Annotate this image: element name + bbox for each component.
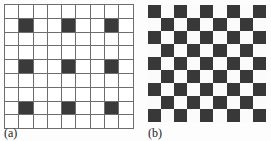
grid-cell	[161, 5, 174, 18]
grid-cell	[105, 88, 118, 101]
grid-cell	[105, 46, 118, 59]
grid-cell	[200, 70, 213, 83]
grid-cell	[62, 46, 75, 59]
grid-cell	[253, 70, 266, 83]
grid-cell	[187, 96, 200, 109]
grid-cell	[213, 70, 226, 83]
grid-cell	[187, 70, 200, 83]
grid-cell	[5, 46, 18, 59]
grid-cell	[34, 74, 47, 87]
grid-cell	[161, 96, 174, 109]
grid-cell	[253, 83, 266, 96]
grid-cell	[34, 46, 47, 59]
grid-cell	[227, 83, 240, 96]
grid-cell	[240, 5, 253, 18]
grid-cell	[91, 88, 104, 101]
grid-cell	[174, 96, 187, 109]
grid-cell	[105, 5, 118, 18]
grid-cell	[161, 31, 174, 44]
grid-cell	[187, 18, 200, 31]
grid-cell	[19, 102, 32, 115]
grid-cell	[200, 44, 213, 57]
grid-cell	[240, 70, 253, 83]
grid-cell	[76, 60, 89, 73]
grid-cell	[227, 96, 240, 109]
grid-cell	[34, 102, 47, 115]
grid-cell	[200, 83, 213, 96]
panel-b-caption: (b)	[148, 127, 162, 139]
grid-cell	[187, 109, 200, 122]
grid-cell	[200, 18, 213, 31]
grid-cell	[62, 5, 75, 18]
grid-cell	[76, 5, 89, 18]
grid-cell	[148, 44, 161, 57]
grid-cell	[174, 31, 187, 44]
grid-cell	[91, 33, 104, 46]
grid-cell	[34, 88, 47, 101]
grid-cell	[5, 74, 18, 87]
grid-cell	[34, 60, 47, 73]
grid-cell	[62, 102, 75, 115]
grid-cell	[148, 57, 161, 70]
grid-cell	[19, 5, 32, 18]
grid-cell	[105, 60, 118, 73]
grid-cell	[91, 5, 104, 18]
grid-cell	[119, 46, 132, 59]
grid-cell	[213, 5, 226, 18]
grid-cell	[253, 31, 266, 44]
grid-cell	[161, 18, 174, 31]
grid-cell	[187, 5, 200, 18]
grid-cell	[253, 18, 266, 31]
grid-cell	[161, 44, 174, 57]
checkerboard-grid-b	[148, 5, 266, 122]
grid-cell	[200, 57, 213, 70]
grid-cell	[200, 96, 213, 109]
grid-cell	[62, 74, 75, 87]
grid-cell	[119, 115, 132, 128]
grid-cell	[187, 31, 200, 44]
grid-cell	[253, 109, 266, 122]
grid-cell	[253, 44, 266, 57]
grid-cell	[174, 57, 187, 70]
grid-cell	[119, 74, 132, 87]
grid-cell	[227, 109, 240, 122]
grid-cell	[213, 83, 226, 96]
grid-cell	[91, 46, 104, 59]
grid-cell	[227, 70, 240, 83]
grid-cell	[19, 19, 32, 32]
grid-cell	[161, 70, 174, 83]
grid-cell	[5, 19, 18, 32]
grid-cell	[213, 44, 226, 57]
grid-cell	[187, 83, 200, 96]
grid-cell	[34, 19, 47, 32]
grid-cell	[119, 60, 132, 73]
grid-cell	[119, 33, 132, 46]
grid-cell	[105, 115, 118, 128]
grid-cell	[91, 60, 104, 73]
grid-cell	[213, 18, 226, 31]
grid-cell	[5, 33, 18, 46]
grid-cell	[240, 18, 253, 31]
grid-cell	[91, 115, 104, 128]
grid-cell	[76, 102, 89, 115]
grid-cell	[200, 109, 213, 122]
grid-cell	[148, 31, 161, 44]
figure-root: (a) (b)	[0, 0, 271, 141]
grid-cell	[148, 18, 161, 31]
grid-cell	[161, 57, 174, 70]
grid-cell	[227, 5, 240, 18]
grid-cell	[119, 5, 132, 18]
panel-a	[4, 4, 134, 129]
grid-cell	[48, 5, 61, 18]
grid-cell	[5, 60, 18, 73]
grid-cell	[19, 74, 32, 87]
grid-cell	[34, 115, 47, 128]
grid-cell	[161, 109, 174, 122]
grid-cell	[48, 74, 61, 87]
grid-cell	[76, 115, 89, 128]
grid-cell	[148, 83, 161, 96]
grid-cell	[227, 18, 240, 31]
panel-a-caption: (a)	[4, 127, 17, 139]
grid-cell	[119, 102, 132, 115]
grid-cell	[227, 31, 240, 44]
